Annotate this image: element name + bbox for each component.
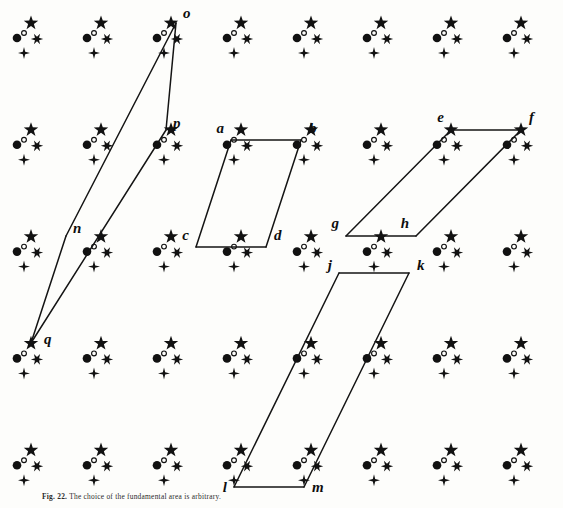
caption-number: Fig. 22. [42,492,67,501]
lattice-diagram: abdcefhgjkmlopnq [0,0,563,508]
caption-body: The choice of the fundamental area is ar… [69,492,221,501]
filled-circle [13,141,22,150]
filled-circle [363,34,372,43]
filled-circle [153,34,162,43]
filled-circle [223,34,232,43]
filled-circle [83,34,92,43]
filled-circle [153,354,162,363]
vertex-label-p: p [171,115,181,131]
filled-circle [503,247,512,256]
vertex-label-q: q [44,331,52,347]
filled-circle [13,34,22,43]
filled-circle [293,247,302,256]
figure-plate: abdcefhgjkmlopnq Fig. 22. The choice of … [0,0,563,508]
filled-circle [153,247,162,256]
vertex-label-h: h [401,215,409,231]
filled-circle [293,34,302,43]
filled-circle [363,461,372,470]
filled-circle [13,247,22,256]
filled-circle [223,247,232,256]
filled-circle [433,354,442,363]
filled-circle [503,354,512,363]
vertex-label-e: e [437,109,444,125]
filled-circle [503,34,512,43]
vertex-label-a: a [217,120,225,136]
figure-caption: Fig. 22. The choice of the fundamental a… [42,492,542,501]
filled-circle [223,354,232,363]
vertex-label-b: b [309,120,317,136]
vertex-label-n: n [73,220,81,236]
filled-circle [13,461,22,470]
filled-circle [503,461,512,470]
filled-circle [363,247,372,256]
vertex-label-g: g [331,215,340,231]
vertex-label-c: c [182,227,189,243]
filled-circle [83,354,92,363]
filled-circle [433,461,442,470]
vertex-label-j: j [326,257,333,273]
vertex-label-d: d [274,227,282,243]
filled-circle [223,461,232,470]
filled-circle [83,141,92,150]
filled-circle [13,354,22,363]
filled-circle [433,247,442,256]
vertex-label-k: k [417,257,425,273]
filled-circle [83,461,92,470]
filled-circle [433,34,442,43]
filled-circle [293,461,302,470]
filled-circle [153,461,162,470]
vertex-label-o: o [183,5,191,21]
filled-circle [363,141,372,150]
